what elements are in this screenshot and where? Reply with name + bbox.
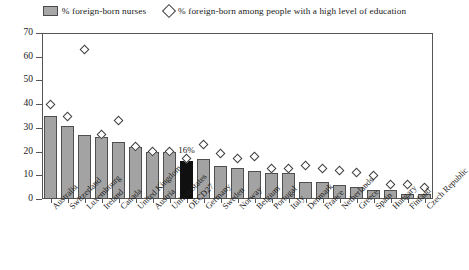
diamond-marker-netherlands — [335, 166, 345, 176]
diamond-marker-italy — [284, 163, 294, 173]
diamond-marker-germany — [199, 140, 209, 150]
diamond-marker-switzerland — [63, 111, 73, 121]
legend-label-high-education: % foreign-born among people with a high … — [178, 6, 406, 16]
y-axis-label: 40 — [0, 99, 33, 109]
diamond-marker-australia — [46, 99, 56, 109]
diamond-marker-denmark — [301, 161, 311, 171]
y-axis-label: 70 — [0, 28, 33, 38]
diamond-marker-greece — [352, 168, 362, 178]
diamond-marker-portugal — [267, 163, 277, 173]
data-series-layer: 16% — [42, 33, 433, 199]
bar-australia — [44, 116, 57, 199]
y-axis-tick — [36, 199, 42, 200]
bar-swatch-icon — [43, 6, 58, 16]
legend-label-nurses: % foreign-born nurses — [62, 6, 146, 16]
oecd-value-label: 16% — [178, 145, 195, 155]
diamond-marker-belgium — [250, 151, 260, 161]
legend-item-nurses: % foreign-born nurses — [43, 6, 146, 16]
diamond-marker-hungary — [386, 180, 396, 190]
diamond-marker-france — [318, 163, 328, 173]
chart-legend: % foreign-born nurses % foreign-born amo… — [0, 6, 449, 16]
y-axis-label: 60 — [0, 52, 33, 62]
y-axis-label: 20 — [0, 147, 33, 157]
legend-item-high-education: % foreign-born among people with a high … — [164, 6, 406, 16]
y-axis-label: 30 — [0, 123, 33, 133]
diamond-marker-norway — [233, 154, 243, 164]
y-axis-label: 0 — [0, 194, 33, 204]
diamond-swatch-icon — [162, 4, 176, 18]
y-axis-label: 50 — [0, 75, 33, 85]
diamond-marker-canada — [114, 116, 124, 126]
diamond-marker-luxembourg — [80, 45, 90, 55]
diamond-marker-sweden — [216, 149, 226, 159]
y-axis-label: 10 — [0, 170, 33, 180]
